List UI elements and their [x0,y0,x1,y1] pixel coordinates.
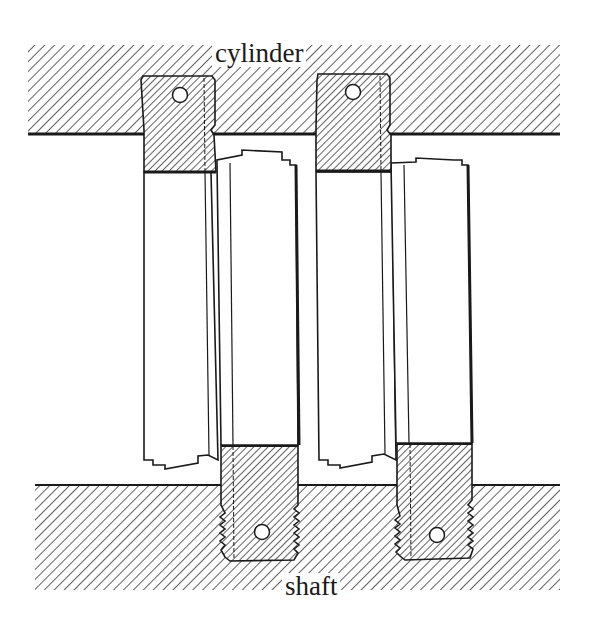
cross-section-diagram [0,0,590,631]
shaft-label: shaft [282,573,340,600]
vane-panel-2 [217,150,299,445]
pin-hole [255,525,270,540]
pin-hole [346,85,361,100]
pin-hole [173,88,188,103]
cylinder-block-left [141,76,216,172]
vane-panel-4 [391,158,472,443]
cylinder-block-right [316,74,391,171]
shaft-block-right [395,444,473,560]
pin-hole [430,528,445,543]
vane-panel-3 [316,172,396,468]
cylinder-label: cylinder [212,40,306,67]
shaft-block-left [220,446,299,561]
vane-panel-1 [144,172,218,469]
